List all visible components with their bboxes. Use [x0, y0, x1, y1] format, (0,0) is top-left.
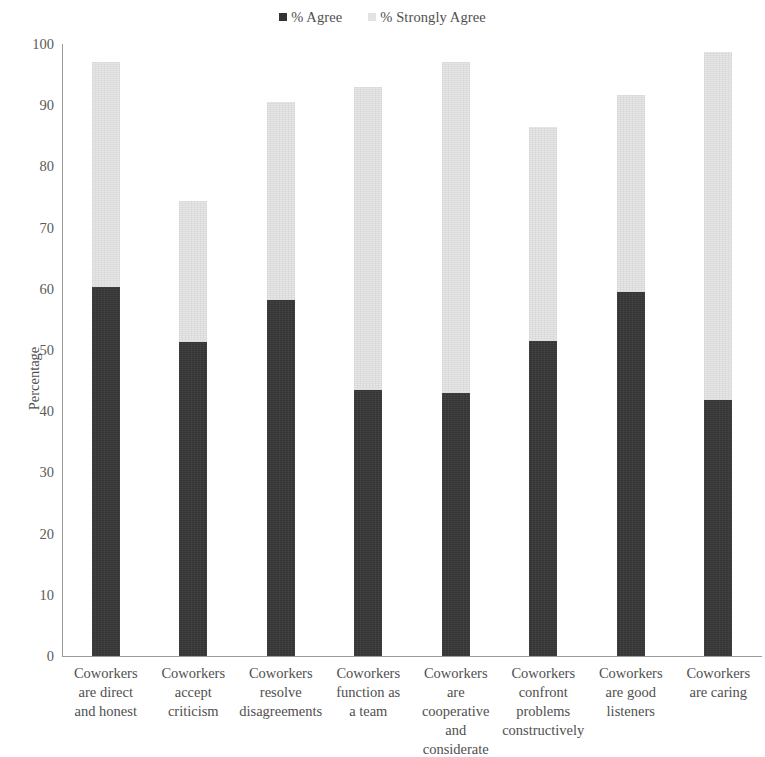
x-axis-label-line: function as: [318, 683, 418, 702]
x-axis-label-line: considerate: [406, 740, 506, 757]
bar-segment-agree[interactable]: [179, 342, 207, 656]
bar-segment-strongly-agree[interactable]: [179, 201, 207, 342]
x-axis-category-label: Coworkersresolvedisagreements: [231, 664, 331, 721]
x-axis-label-line: Coworkers: [143, 664, 243, 683]
x-axis-label-line: and: [406, 721, 506, 740]
x-axis-label-line: problems: [493, 702, 593, 721]
x-axis-label-line: Coworkers: [318, 664, 418, 683]
x-axis-category-label: Coworkersare caring: [668, 664, 765, 702]
y-axis-tick-label: 100: [14, 36, 54, 53]
bar-segment-agree[interactable]: [617, 292, 645, 656]
x-axis-label-line: accept: [143, 683, 243, 702]
bar-series-container: [62, 0, 762, 757]
chart-plot-area: Percentage 1009080706050403020100 Cowork…: [0, 0, 765, 757]
stacked-bar[interactable]: [179, 201, 207, 656]
y-axis-tick-label: 40: [14, 403, 54, 420]
x-axis-label-line: Coworkers: [231, 664, 331, 683]
y-axis-tick-label: 10: [14, 586, 54, 603]
x-axis-label-line: are direct: [56, 683, 156, 702]
bar-group: [675, 44, 763, 656]
stacked-bar[interactable]: [354, 87, 382, 656]
y-axis-tick-label: 60: [14, 280, 54, 297]
y-axis-tick-label: 20: [14, 525, 54, 542]
y-axis-tick-label: 30: [14, 464, 54, 481]
bar-segment-strongly-agree[interactable]: [92, 62, 120, 287]
x-axis-label-line: are caring: [668, 683, 765, 702]
x-axis-label-line: disagreements: [231, 702, 331, 721]
stacked-bar[interactable]: [529, 127, 557, 656]
y-axis-tick-labels: 1009080706050403020100: [14, 0, 54, 757]
x-axis-label-line: a team: [318, 702, 418, 721]
stacked-bar[interactable]: [267, 102, 295, 656]
bar-segment-strongly-agree[interactable]: [354, 87, 382, 390]
stacked-bar[interactable]: [617, 95, 645, 656]
x-axis-label-line: Coworkers: [493, 664, 593, 683]
stacked-bar[interactable]: [442, 62, 470, 656]
x-axis-label-line: Coworkers: [668, 664, 765, 683]
x-axis-label-line: Coworkers: [406, 664, 506, 683]
x-axis-category-label: Coworkersare directand honest: [56, 664, 156, 721]
x-axis-label-line: Coworkers: [581, 664, 681, 683]
x-axis-category-label: Coworkersacceptcriticism: [143, 664, 243, 721]
x-axis-label-line: are: [406, 683, 506, 702]
bar-group: [62, 44, 150, 656]
bar-segment-agree[interactable]: [529, 341, 557, 656]
bar-segment-strongly-agree[interactable]: [704, 52, 732, 400]
x-axis-label-line: cooperative: [406, 702, 506, 721]
y-axis-tick-label: 50: [14, 342, 54, 359]
x-axis-label-line: and honest: [56, 702, 156, 721]
x-axis-label-line: Coworkers: [56, 664, 156, 683]
x-axis-category-labels: Coworkersare directand honestCoworkersac…: [62, 664, 762, 757]
y-axis-tick-label: 70: [14, 219, 54, 236]
y-axis-tick-label: 0: [14, 648, 54, 665]
bar-group: [325, 44, 413, 656]
x-axis-category-label: Coworkersfunction asa team: [318, 664, 418, 721]
bar-segment-strongly-agree[interactable]: [267, 102, 295, 300]
y-axis-tick-label: 90: [14, 97, 54, 114]
bar-group: [237, 44, 325, 656]
bar-segment-agree[interactable]: [704, 400, 732, 656]
bar-segment-strongly-agree[interactable]: [442, 62, 470, 392]
x-axis-category-label: Coworkersare goodlisteners: [581, 664, 681, 721]
bar-segment-agree[interactable]: [92, 287, 120, 656]
x-axis-label-line: constructively: [493, 721, 593, 740]
bar-segment-agree[interactable]: [442, 393, 470, 656]
bar-segment-agree[interactable]: [354, 390, 382, 656]
x-axis-label-line: resolve: [231, 683, 331, 702]
bar-group: [587, 44, 675, 656]
x-axis-category-label: Coworkersarecooperativeandconsiderate: [406, 664, 506, 757]
y-axis-tick-label: 80: [14, 158, 54, 175]
bar-segment-agree[interactable]: [267, 300, 295, 656]
stacked-bar[interactable]: [92, 62, 120, 656]
bar-segment-strongly-agree[interactable]: [617, 95, 645, 292]
x-axis-label-line: listeners: [581, 702, 681, 721]
x-axis-label-line: are good: [581, 683, 681, 702]
bar-segment-strongly-agree[interactable]: [529, 127, 557, 341]
x-axis-category-label: Coworkersconfrontproblemsconstructively: [493, 664, 593, 740]
bar-group: [412, 44, 500, 656]
bar-group: [500, 44, 588, 656]
bar-group: [150, 44, 238, 656]
stacked-bar[interactable]: [704, 52, 732, 656]
x-axis-label-line: criticism: [143, 702, 243, 721]
x-axis-label-line: confront: [493, 683, 593, 702]
